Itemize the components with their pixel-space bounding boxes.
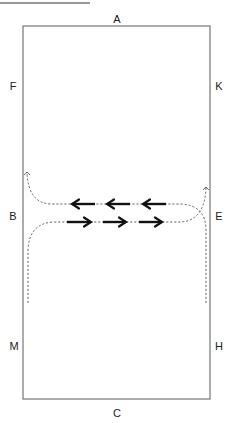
marker-f: F [10,80,17,92]
marker-e: E [215,210,222,222]
arrow-right-icon [139,218,162,227]
arrow-left-icon [72,200,95,209]
arena-rectangle [23,26,210,399]
marker-c: C [113,407,121,419]
arrow-right-icon [67,218,91,227]
marker-b: B [9,210,16,222]
arrow-left-icon [107,200,130,209]
marker-m: M [9,340,18,352]
arrow-left-icon [143,200,166,209]
marker-k: K [215,80,223,92]
arrow-right-icon [103,218,126,227]
marker-h: H [215,340,223,352]
arena-markers: AFKBEMHC [9,13,223,419]
marker-a: A [113,13,121,25]
arena-diagram: AFKBEMHC [0,0,240,423]
direction-arrows [67,200,166,227]
routes [27,172,206,303]
upper-route-path [27,172,206,303]
